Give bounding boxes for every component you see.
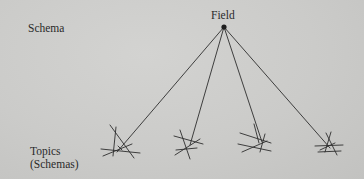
- diagram-graphics: [0, 0, 364, 179]
- edge-to-topic-4: [224, 27, 330, 148]
- edge-to-topic-3: [224, 27, 262, 142]
- topic-cluster-1: [101, 125, 140, 158]
- field-node: [221, 24, 226, 29]
- topic-cluster-2: [174, 130, 203, 159]
- edge-to-topic-1: [117, 27, 224, 152]
- topic-cluster-3: [238, 124, 271, 152]
- edge-to-topic-2: [190, 27, 224, 145]
- schema-field-diagram: Schema Field Topics (Schemas): [0, 0, 364, 179]
